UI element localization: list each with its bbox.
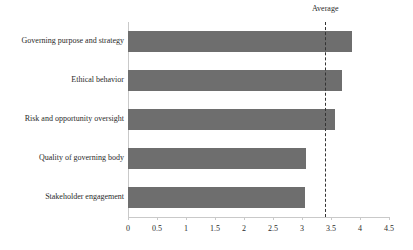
x-axis-tick-label: 2.5	[268, 224, 278, 234]
bar	[128, 70, 342, 91]
average-line-label: Average	[312, 4, 339, 14]
x-axis-tick-mark	[331, 217, 332, 220]
bar	[128, 187, 305, 208]
x-axis-tick-mark	[244, 217, 245, 220]
x-axis-tick-label: 0.5	[152, 224, 162, 234]
x-axis-tick-mark	[389, 217, 390, 220]
bar-chart: Average Governing purpose and strategyEt…	[0, 0, 413, 250]
x-axis-tick-mark	[360, 217, 361, 220]
x-axis-tick-label: 1	[184, 224, 188, 234]
x-axis-line	[128, 217, 389, 218]
x-axis-tick-mark	[186, 217, 187, 220]
x-axis-tick-label: 1.5	[210, 224, 220, 234]
x-axis-tick-label: 3.5	[326, 224, 336, 234]
category-label: Stakeholder engagement	[0, 192, 124, 202]
category-label: Risk and opportunity oversight	[0, 114, 124, 124]
x-axis-tick-mark	[157, 217, 158, 220]
x-axis-tick-label: 3	[300, 224, 304, 234]
bar	[128, 148, 306, 169]
x-axis-tick-mark	[128, 217, 129, 220]
x-axis-tick-mark	[302, 217, 303, 220]
category-label: Quality of governing body	[0, 153, 124, 163]
average-reference-line	[325, 22, 326, 217]
x-axis-tick-label: 4.5	[384, 224, 394, 234]
x-axis-tick-mark	[215, 217, 216, 220]
category-label: Ethical behavior	[0, 75, 124, 85]
category-label: Governing purpose and strategy	[0, 36, 124, 46]
x-axis-tick-mark	[273, 217, 274, 220]
bar	[128, 109, 335, 130]
x-axis-tick-label: 2	[242, 224, 246, 234]
bar	[128, 31, 352, 52]
x-axis-tick-label: 0	[126, 224, 130, 234]
x-axis-tick-label: 4	[358, 224, 362, 234]
